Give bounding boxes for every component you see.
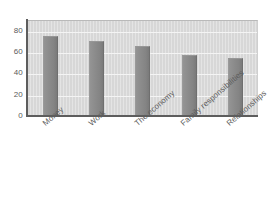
plot-area bbox=[27, 20, 258, 116]
bar bbox=[43, 36, 58, 116]
gridline bbox=[27, 32, 257, 33]
bar bbox=[228, 58, 243, 116]
bar bbox=[182, 55, 197, 116]
x-axis-line bbox=[26, 115, 258, 117]
y-axis-tick-label: 80 bbox=[0, 27, 23, 35]
bar-chart-figure: 020406080 MoneyWorkThe economyFamily res… bbox=[0, 0, 267, 200]
y-axis-tick-label: 40 bbox=[0, 69, 23, 77]
bar bbox=[89, 41, 104, 116]
y-axis-tick-labels: 020406080 bbox=[0, 0, 23, 200]
y-axis-tick-label: 60 bbox=[0, 48, 23, 56]
y-axis-line bbox=[26, 19, 28, 117]
bar bbox=[135, 46, 150, 116]
y-axis-tick-label: 20 bbox=[0, 91, 23, 99]
y-axis-tick-label: 0 bbox=[0, 112, 23, 120]
